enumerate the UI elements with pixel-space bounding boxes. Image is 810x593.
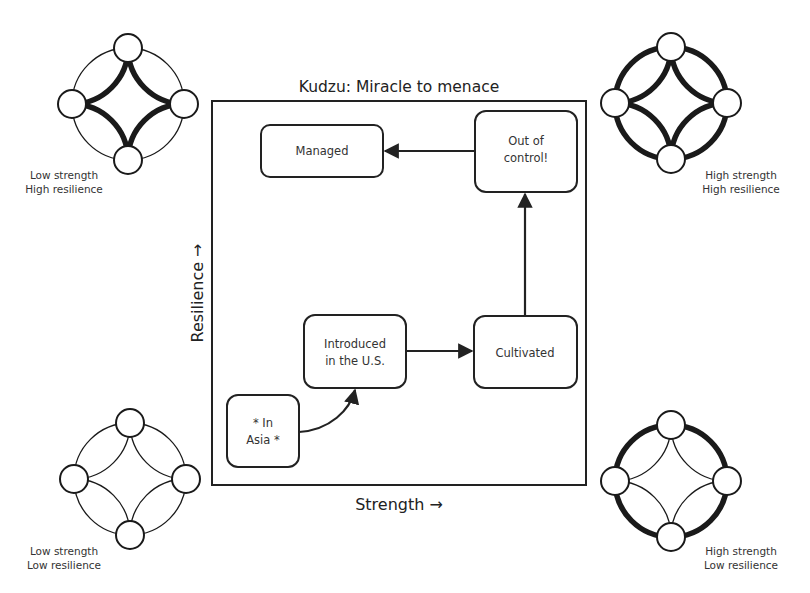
corner-graphs	[58, 33, 741, 551]
outer-ring-edge	[74, 423, 186, 535]
outer-ring-edge	[615, 425, 727, 537]
kudzu-diagram: Kudzu: Miracle to menace Strength → Resi…	[0, 0, 810, 593]
node-cultivated-label: Cultivated	[496, 346, 555, 360]
graph-node-top	[657, 411, 685, 439]
graph-node-right	[713, 467, 741, 495]
graph-node-left	[58, 90, 86, 118]
graph-node-bottom	[657, 145, 685, 173]
corner-label-top-right-line1: High strength	[705, 169, 777, 181]
graph-node-right	[172, 465, 200, 493]
node-in-asia: * In Asia *	[227, 395, 299, 467]
corner-label-bottom-right-line1: High strength	[705, 545, 777, 557]
corner-graph-bottom-left	[60, 409, 200, 549]
node-cultivated: Cultivated	[474, 316, 577, 388]
node-introduced: Introduced in the U.S.	[304, 315, 406, 388]
node-out-of-control-line2: control!	[504, 151, 548, 165]
node-out-of-control-line1: Out of	[508, 134, 545, 148]
node-out-of-control: Out of control!	[475, 111, 577, 192]
graph-node-bottom	[657, 523, 685, 551]
node-introduced-line1: Introduced	[324, 337, 386, 351]
graph-node-right	[170, 90, 198, 118]
node-managed-label: Managed	[296, 144, 349, 158]
corner-label-top-left-line2: High resilience	[25, 183, 103, 195]
corner-label-bottom-left-line2: Low resilience	[27, 559, 101, 571]
edge-in-asia-to-introduced	[299, 390, 355, 432]
graph-node-left	[601, 89, 629, 117]
node-introduced-line2: in the U.S.	[325, 354, 385, 368]
corner-graph-top-left	[58, 34, 198, 174]
corner-graph-bottom-right	[601, 411, 741, 551]
graph-node-top	[657, 33, 685, 61]
corner-label-top-right-line2: High resilience	[702, 183, 780, 195]
x-axis-label: Strength →	[355, 495, 443, 514]
diagram-title: Kudzu: Miracle to menace	[299, 78, 500, 96]
graph-node-bottom	[116, 521, 144, 549]
corner-label-bottom-right-line2: Low resilience	[704, 559, 778, 571]
corner-label-bottom-left-line1: Low strength	[30, 545, 98, 557]
graph-node-top	[114, 34, 142, 62]
graph-node-bottom	[114, 146, 142, 174]
graph-node-left	[60, 465, 88, 493]
node-in-asia-line1: * In	[253, 416, 273, 430]
graph-node-top	[116, 409, 144, 437]
y-axis-label: Resilience →	[188, 243, 207, 342]
graph-node-left	[601, 467, 629, 495]
node-managed: Managed	[261, 125, 383, 177]
corner-label-top-left-line1: Low strength	[30, 169, 98, 181]
corner-graph-top-right	[601, 33, 741, 173]
node-in-asia-line2: Asia *	[246, 433, 280, 447]
graph-node-right	[713, 89, 741, 117]
